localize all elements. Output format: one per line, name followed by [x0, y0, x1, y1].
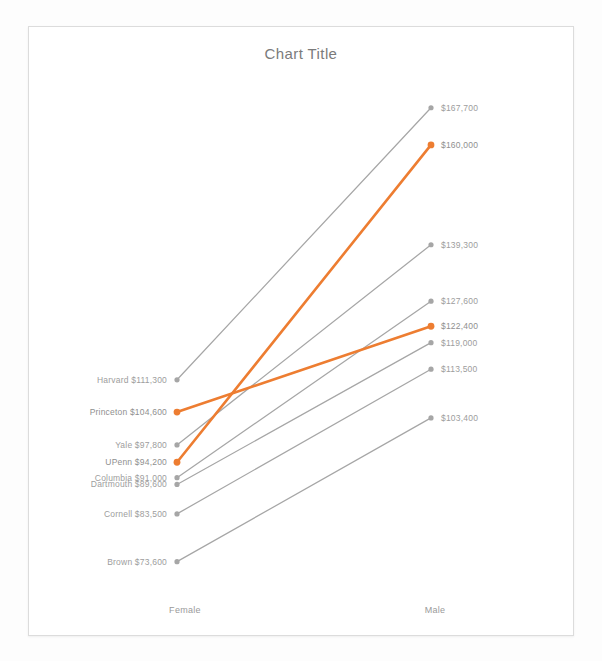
plot-area: Harvard $111,300Princeton $104,600Yale $… — [29, 27, 575, 637]
slope-marker — [428, 242, 433, 247]
point-label-left-cornell: Cornell $83,500 — [29, 509, 167, 519]
slope-chart-svg — [29, 27, 575, 637]
slope-lines-group — [177, 108, 431, 562]
point-label-left-brown: Brown $73,600 — [29, 557, 167, 567]
slope-marker — [428, 141, 435, 148]
slope-marker — [428, 367, 433, 372]
slope-line — [177, 301, 431, 478]
slope-marker — [174, 475, 179, 480]
slope-marker — [428, 415, 433, 420]
slope-line — [177, 418, 431, 562]
point-label-right-harvard: $167,700 — [441, 103, 478, 113]
slope-marker — [174, 482, 179, 487]
point-label-left-dartmouth: Dartmouth $89,600 — [29, 479, 167, 489]
point-label-left-harvard: Harvard $111,300 — [29, 375, 167, 385]
point-label-left-upenn: UPenn $94,200 — [29, 457, 167, 467]
slope-marker — [174, 511, 179, 516]
slope-markers-group — [174, 105, 435, 564]
slope-marker — [428, 323, 435, 330]
slope-marker — [428, 105, 433, 110]
slope-line — [177, 369, 431, 514]
slope-marker — [174, 459, 181, 466]
slope-marker — [428, 299, 433, 304]
point-label-right-upenn: $160,000 — [441, 140, 478, 150]
slope-marker — [428, 340, 433, 345]
point-label-left-princeton: Princeton $104,600 — [29, 407, 167, 417]
point-label-left-yale: Yale $97,800 — [29, 440, 167, 450]
slope-marker — [174, 409, 181, 416]
point-label-right-yale: $139,300 — [441, 240, 478, 250]
point-label-right-columbia: $127,600 — [441, 296, 478, 306]
point-label-right-dartmouth: $119,000 — [441, 338, 477, 348]
axis-category-female: Female — [137, 605, 233, 615]
slope-marker — [174, 442, 179, 447]
slope-marker — [174, 559, 179, 564]
chart-frame: Chart Title Harvard $111,300Princeton $1… — [28, 26, 574, 636]
slope-line — [177, 145, 431, 462]
point-label-right-princeton: $122,400 — [441, 321, 478, 331]
point-label-right-brown: $103,400 — [441, 413, 478, 423]
axis-category-male: Male — [387, 605, 483, 615]
slope-marker — [174, 377, 179, 382]
point-label-right-cornell: $113,500 — [441, 364, 477, 374]
